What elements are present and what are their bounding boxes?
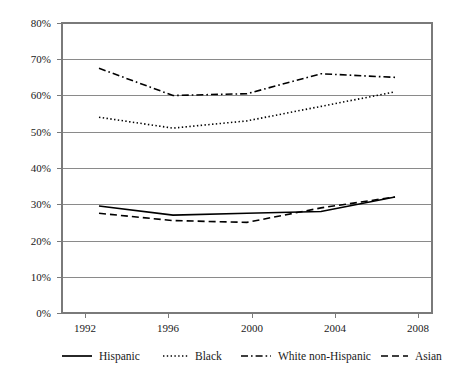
y-axis-label-70: 70% — [31, 53, 51, 65]
x-axis-ticks — [85, 313, 418, 318]
y-axis-label-0: 0% — [36, 307, 51, 319]
data-series-group — [99, 68, 395, 222]
y-axis-label-60: 60% — [31, 89, 51, 101]
x-axis-label-2008: 2008 — [407, 322, 430, 334]
legend-label-white-non-hispanic: White non-Hispanic — [278, 350, 371, 363]
x-axis-label-2000: 2000 — [241, 322, 264, 334]
series-line-asian — [99, 197, 395, 222]
chart-container: 80% 70% 60% 50% 40% 30% 20% 10% 0% 1992 … — [0, 0, 455, 374]
series-line-white-non-hispanic — [99, 68, 395, 95]
legend-label-asian: Asian — [415, 350, 442, 362]
y-axis-labels: 80% 70% 60% 50% 40% 30% 20% 10% 0% — [31, 17, 51, 319]
legend-label-black: Black — [195, 350, 222, 362]
y-axis-label-50: 50% — [31, 126, 51, 138]
y-axis-label-10: 10% — [31, 271, 51, 283]
x-axis-label-1992: 1992 — [74, 322, 96, 334]
y-axis-label-80: 80% — [31, 17, 51, 29]
legend-label-hispanic: Hispanic — [99, 350, 140, 363]
x-axis-labels: 1992 1996 2000 2004 2008 — [74, 322, 430, 334]
y-axis-label-20: 20% — [31, 235, 51, 247]
series-line-black — [99, 92, 395, 128]
x-axis-label-2004: 2004 — [324, 322, 347, 334]
x-axis-label-1996: 1996 — [157, 322, 180, 334]
series-line-hispanic — [99, 197, 395, 215]
line-chart: 80% 70% 60% 50% 40% 30% 20% 10% 0% 1992 … — [0, 0, 455, 374]
gridlines — [62, 23, 432, 277]
chart-legend: Hispanic Black White non-Hispanic Asian — [62, 350, 442, 363]
y-axis-label-40: 40% — [31, 162, 51, 174]
y-axis-label-30: 30% — [31, 198, 51, 210]
y-axis-ticks — [57, 23, 62, 313]
